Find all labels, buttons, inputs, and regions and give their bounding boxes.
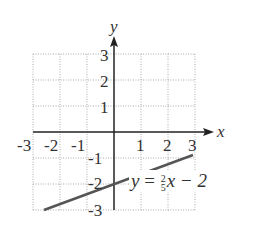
y-tick: -2 [88, 175, 102, 192]
y-tick: 2 [100, 73, 109, 90]
eq-y: y [131, 170, 139, 191]
x-tick: -2 [44, 137, 58, 154]
x-tick: 2 [163, 137, 172, 154]
x-tick: -1 [71, 137, 85, 154]
denominator: 5 [161, 183, 166, 192]
equation-label: y = 25x − 2 [129, 170, 209, 192]
x-tick: 1 [136, 137, 145, 154]
x-axis-label: x [217, 123, 225, 140]
fraction: 25 [161, 174, 166, 192]
x-tick: -3 [17, 137, 31, 154]
y-tick: 1 [100, 99, 109, 116]
y-axis-label: y [110, 18, 118, 35]
y-tick: -3 [88, 202, 102, 219]
y-tick: -1 [88, 150, 102, 167]
eq-rest: x − 2 [167, 170, 207, 191]
coordinate-plane [0, 0, 257, 234]
x-tick: 3 [188, 137, 197, 154]
eq-sign: = [144, 170, 155, 191]
y-tick: 3 [100, 47, 109, 64]
